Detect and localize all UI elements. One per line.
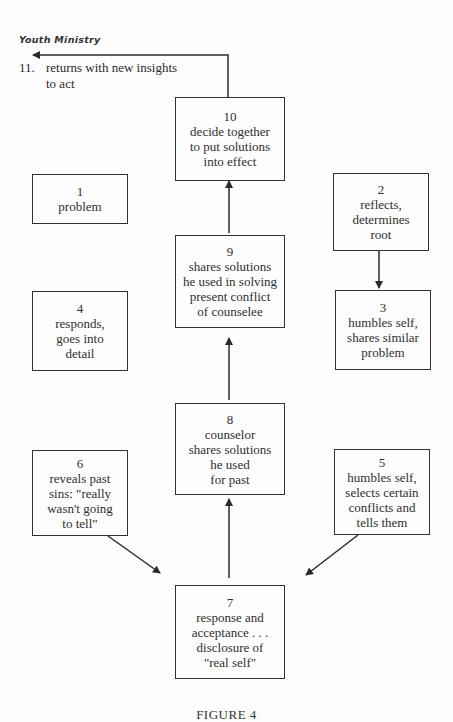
step-9-box: 9 shares solutions he used in solving pr…	[175, 235, 285, 328]
step-5-number: 5	[335, 455, 429, 470]
step-5-box: 5 humbles self, selects certain conflict…	[334, 449, 430, 535]
step-7-text: "real self"	[176, 655, 284, 670]
step-6-text: reveals past	[33, 471, 127, 486]
step-2-text: determines	[334, 212, 428, 227]
step-7-number: 7	[176, 595, 284, 610]
step-7-text: disclosure of	[176, 640, 284, 655]
step-3-box: 3 humbles self, shares similar problem	[335, 290, 431, 370]
step-1-number: 1	[33, 184, 127, 199]
step-10-text: into effect	[176, 154, 284, 169]
step-10-number: 10	[176, 109, 284, 124]
step-5-text: humbles self,	[335, 470, 429, 485]
step-5-text: selects certain	[335, 485, 429, 500]
step-5-text: tells them	[335, 515, 429, 530]
step-6-text: sins: "really	[33, 486, 127, 501]
step-3-text: problem	[336, 345, 430, 360]
step-9-text: he used in solving	[176, 274, 284, 289]
step-6-number: 6	[33, 456, 127, 471]
step-7-text: response and	[176, 610, 284, 625]
step-8-text: shares solutions	[176, 442, 284, 457]
step-2-text: reflects,	[334, 197, 428, 212]
step-8-box: 8 counselor shares solutions he used for…	[175, 403, 285, 495]
step-8-text: he used	[176, 457, 284, 472]
step-4-box: 4 responds, goes into detail	[32, 291, 128, 371]
step-7-text: acceptance . . .	[176, 625, 284, 640]
step-6-box: 6 reveals past sins: "really wasn't goin…	[32, 450, 128, 536]
figure-caption: FIGURE 4	[0, 707, 453, 722]
step-2-box: 2 reflects, determines root	[333, 173, 429, 251]
step-3-text: shares similar	[336, 330, 430, 345]
step-6-text: to tell"	[33, 516, 127, 531]
step-4-text: goes into	[33, 331, 127, 346]
step-7-box: 7 response and acceptance . . . disclosu…	[175, 585, 285, 679]
step-8-text: counselor	[176, 427, 284, 442]
step-1-text: problem	[33, 199, 127, 214]
step-8-text: for past	[176, 472, 284, 487]
step-6-text: wasn't going	[33, 501, 127, 516]
step-10-text: decide together	[176, 124, 284, 139]
step-1-box: 1 problem	[32, 174, 128, 224]
step-2-number: 2	[334, 182, 428, 197]
step-9-text: of counselee	[176, 304, 284, 319]
step-5-text: conflicts and	[335, 500, 429, 515]
step-9-text: present conflict	[176, 289, 284, 304]
step-10-text: to put solutions	[176, 139, 284, 154]
step-4-number: 4	[33, 301, 127, 316]
step-3-text: humbles self,	[336, 315, 430, 330]
step-10-box: 10 decide together to put solutions into…	[175, 97, 285, 181]
step-4-text: detail	[33, 346, 127, 361]
step-3-number: 3	[336, 300, 430, 315]
step-9-text: shares solutions	[176, 259, 284, 274]
step-9-number: 9	[176, 244, 284, 259]
step-2-text: root	[334, 227, 428, 242]
step-8-number: 8	[176, 412, 284, 427]
step-4-text: responds,	[33, 316, 127, 331]
